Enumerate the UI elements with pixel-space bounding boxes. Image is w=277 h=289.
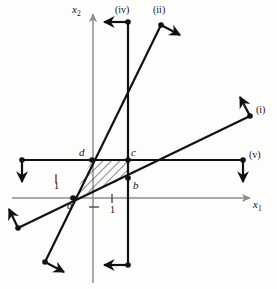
vertex-dot-c <box>125 157 131 163</box>
x2-tick-label: 1 <box>54 181 59 191</box>
constraint-label-v: (v) <box>249 150 261 160</box>
constraint-ii-lower-normal-arrow <box>45 262 64 272</box>
vertex-label-d: d <box>79 147 85 158</box>
constraint-label-ii: (ii) <box>153 5 165 15</box>
constraint-line-ii <box>42 22 180 272</box>
vertex-label-b: b <box>133 180 139 191</box>
vertex-label-a: a <box>67 200 73 211</box>
x2-axis-label: x2 <box>72 4 81 18</box>
figure-canvas <box>0 0 277 289</box>
constraint-line-iv <box>104 19 131 268</box>
x1-axis-subscript: 1 <box>258 204 262 213</box>
lp-feasible-region-figure: x2 x1 (iv) (ii) (i) (v) a b c d 1 1 <box>0 0 277 289</box>
constraint-label-iv: (iv) <box>115 5 129 15</box>
vertex-label-c: c <box>131 147 136 158</box>
constraint-label-i: (i) <box>256 105 265 115</box>
constraint-line-i <box>9 97 253 231</box>
x2-axis-subscript: 2 <box>77 9 81 18</box>
x1-tick-label: 1 <box>110 205 115 215</box>
vertex-dot-b <box>125 175 131 181</box>
x1-axis-label: x1 <box>253 199 262 213</box>
vertex-dot-d <box>89 157 95 163</box>
constraint-i-lower-normal-arrow <box>9 209 18 228</box>
constraint-ii-upper-normal-arrow <box>161 25 180 35</box>
constraint-i-upper-normal-arrow <box>240 97 250 116</box>
